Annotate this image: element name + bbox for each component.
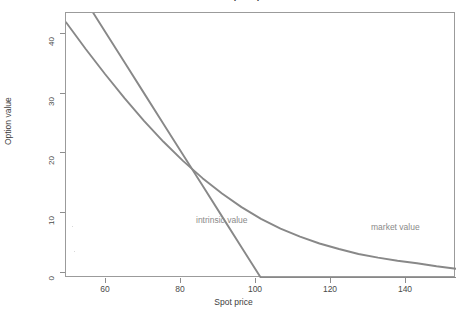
x-tick-label-60: 60 bbox=[100, 285, 109, 294]
x-tick-80 bbox=[180, 278, 181, 283]
x-tick-label-120: 120 bbox=[323, 285, 337, 294]
scan-speck bbox=[72, 226, 73, 227]
y-tick-label-30: 30 bbox=[48, 97, 56, 106]
chart-figure: Value of a put option intrinsic value ma… bbox=[0, 0, 467, 318]
y-tick-10 bbox=[60, 212, 65, 213]
x-tick-label-80: 80 bbox=[175, 285, 184, 294]
annotation-intrinsic-value: intrinsic value bbox=[196, 216, 248, 225]
x-axis-title: Spot price bbox=[0, 298, 467, 307]
x-tick-60 bbox=[105, 278, 106, 283]
annotation-market-value: market value bbox=[371, 223, 420, 232]
y-axis-title: Option value bbox=[4, 97, 13, 145]
series-intrinsic-value bbox=[93, 13, 456, 278]
x-tick-label-140: 140 bbox=[398, 285, 412, 294]
plot-area: intrinsic value market value bbox=[65, 12, 455, 277]
y-tick-20 bbox=[60, 152, 65, 153]
y-tick-0 bbox=[60, 272, 65, 273]
x-tick-100 bbox=[255, 278, 256, 283]
intrinsic-value-line bbox=[93, 13, 456, 278]
y-tick-label-10: 10 bbox=[48, 216, 56, 225]
x-tick-140 bbox=[405, 278, 406, 283]
y-tick-label-40: 40 bbox=[48, 37, 56, 46]
chart-title: Value of a put option bbox=[0, 0, 467, 1]
y-tick-label-20: 20 bbox=[48, 156, 56, 165]
y-tick-30 bbox=[60, 93, 65, 94]
x-tick-120 bbox=[330, 278, 331, 283]
x-tick-label-100: 100 bbox=[248, 285, 262, 294]
plot-canvas bbox=[66, 13, 456, 278]
y-tick-40 bbox=[60, 33, 65, 34]
scan-speck bbox=[74, 251, 75, 252]
y-tick-label-0: 0 bbox=[48, 276, 56, 280]
